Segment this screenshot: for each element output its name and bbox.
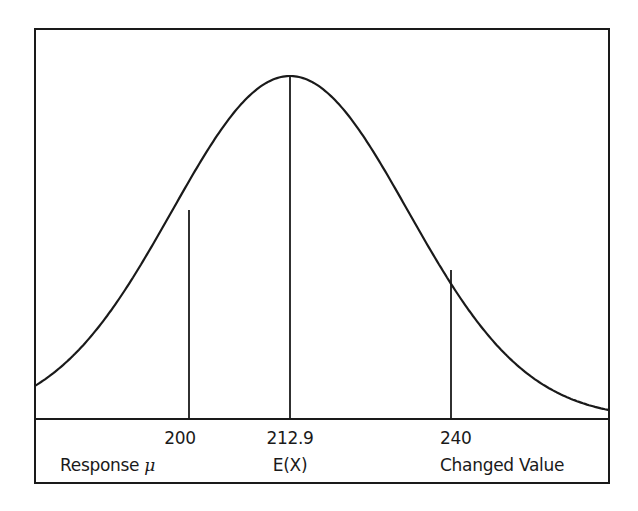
tick-label-240: 240	[440, 428, 472, 448]
label-response-mu: Response μ	[60, 455, 155, 475]
bell-curve	[35, 76, 609, 410]
normal-distribution-diagram	[0, 0, 638, 511]
label-changed-value: Changed Value	[440, 455, 564, 475]
tick-label-212-9: 212.9	[266, 428, 313, 448]
figure-frame	[35, 29, 609, 483]
label-expected-value: E(X)	[273, 455, 307, 475]
mu-symbol: μ	[144, 455, 155, 475]
label-response-text: Response	[60, 455, 144, 475]
tick-label-200: 200	[164, 428, 196, 448]
